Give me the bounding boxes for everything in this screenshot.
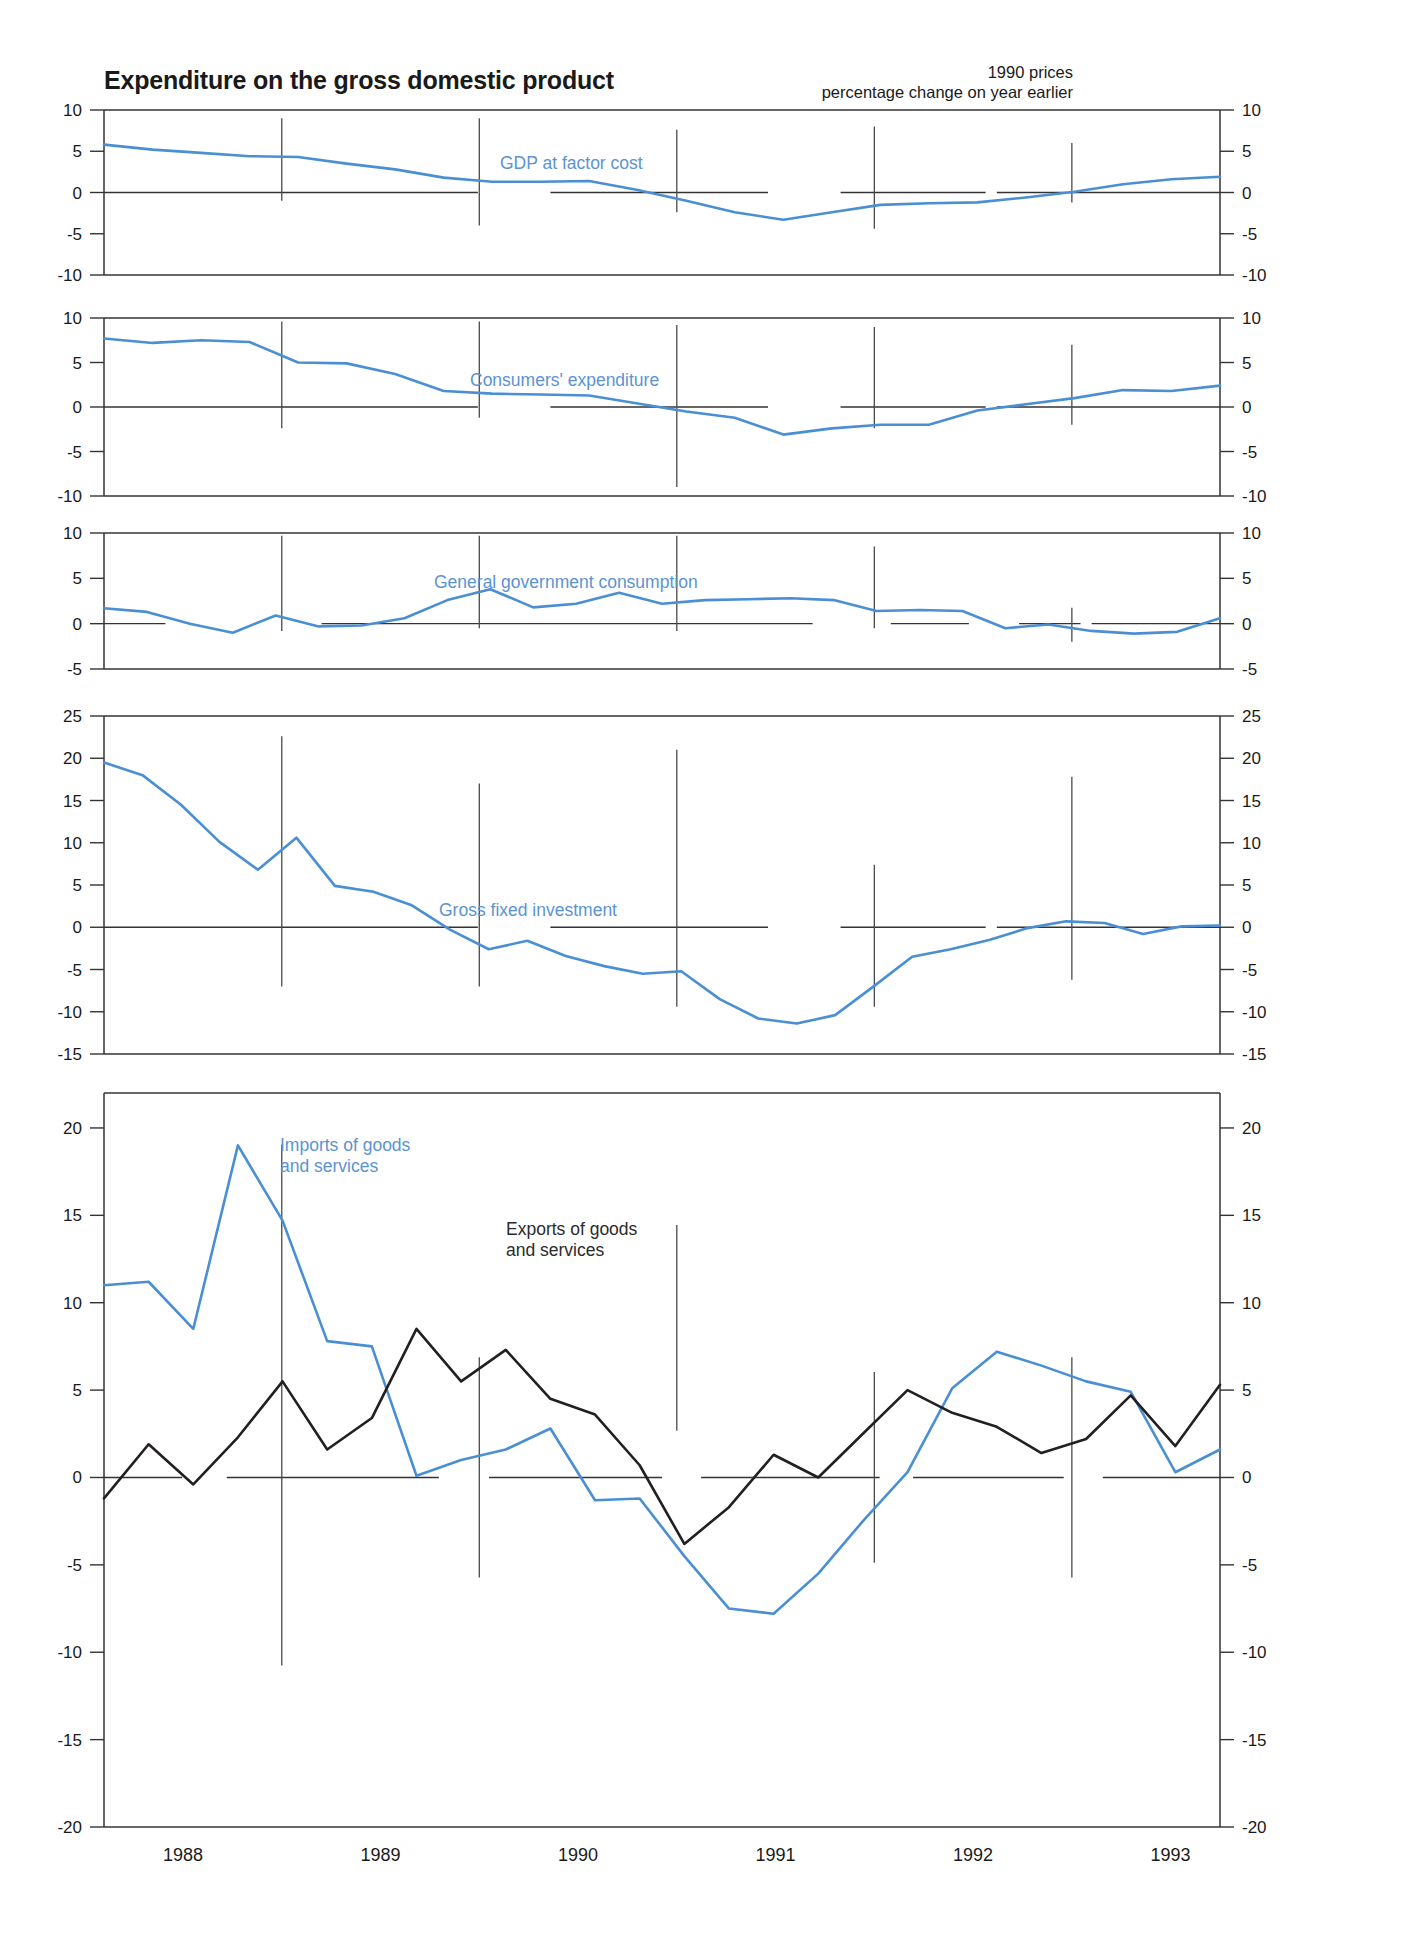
series-label-consumers: Consumers' expenditure	[470, 370, 659, 391]
series-label-exports: Exports of goodsand services	[506, 1219, 637, 1261]
series-label-government-line: General government consumption	[434, 572, 698, 593]
y-tick-label-left: 0	[73, 1469, 82, 1486]
y-tick-label-right: 20	[1242, 1119, 1261, 1136]
x-tick-label-1992: 1992	[953, 1845, 993, 1866]
series-label-government: General government consumption	[434, 572, 698, 593]
y-tick-label-right: 10	[1242, 1294, 1261, 1311]
y-tick-label-right: -15	[1242, 1731, 1267, 1748]
series-label-investment: Gross fixed investment	[439, 900, 617, 921]
panel-trade-in-goods-and-services: -20-20-15-15-10-10-5-50055101015152020	[0, 0, 1403, 1954]
y-tick-label-left: 5	[73, 1382, 82, 1399]
y-tick-label-left: -5	[67, 1556, 82, 1573]
x-tick-label-1991: 1991	[756, 1845, 796, 1866]
y-tick-label-left: 15	[63, 1207, 82, 1224]
y-tick-label-right: 0	[1242, 1469, 1251, 1486]
series-label-imports: Imports of goodsand services	[280, 1135, 410, 1177]
x-tick-label-1988: 1988	[163, 1845, 203, 1866]
plot-area-trade-in-goods-and-services	[0, 0, 1403, 1954]
x-axis-tick-labels: 198819891990199119921993	[0, 1845, 1403, 1885]
x-tick-label-1990: 1990	[558, 1845, 598, 1866]
y-tick-label-left: -15	[57, 1731, 82, 1748]
series-line	[104, 1145, 1220, 1613]
chart-page: Expenditure on the gross domestic produc…	[0, 0, 1403, 1954]
y-tick-label-right: 15	[1242, 1207, 1261, 1224]
series-label-imports-line: Imports of goods	[280, 1135, 410, 1156]
series-label-gdp: GDP at factor cost	[500, 153, 643, 174]
y-tick-label-right: 5	[1242, 1382, 1251, 1399]
x-tick-label-1989: 1989	[360, 1845, 400, 1866]
y-tick-label-right: -20	[1242, 1819, 1267, 1836]
series-label-exports-line: Exports of goods	[506, 1219, 637, 1240]
y-tick-label-right: -5	[1242, 1556, 1257, 1573]
series-label-exports-line: and services	[506, 1240, 637, 1261]
series-label-consumers-line: Consumers' expenditure	[470, 370, 659, 391]
y-tick-label-right: -10	[1242, 1644, 1267, 1661]
series-label-investment-line: Gross fixed investment	[439, 900, 617, 921]
y-tick-label-left: -20	[57, 1819, 82, 1836]
series-line	[104, 1329, 1220, 1544]
y-tick-label-left: 10	[63, 1294, 82, 1311]
series-label-gdp-line: GDP at factor cost	[500, 153, 643, 174]
series-label-imports-line: and services	[280, 1156, 410, 1177]
y-tick-label-left: 20	[63, 1119, 82, 1136]
x-tick-label-1993: 1993	[1151, 1845, 1191, 1866]
y-tick-label-left: -10	[57, 1644, 82, 1661]
